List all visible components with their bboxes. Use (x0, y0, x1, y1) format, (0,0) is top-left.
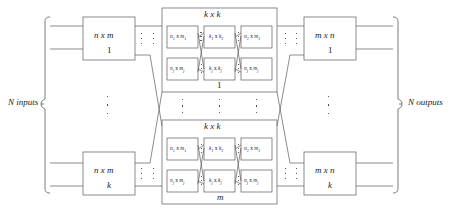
ellipsis-input-stage-vertical (106, 96, 109, 114)
ellipsis-output-box-k-ports (295, 168, 298, 179)
ellipsis-middle-stage-col2 (218, 99, 221, 113)
midm-out-switch-top-label: n1 x m1 (244, 146, 260, 153)
ellipsis-interstage-right-1 (284, 33, 287, 44)
ellipsis-output-stage-vertical (327, 96, 330, 114)
input-switch-k-dimension: n x m (94, 166, 114, 175)
mid1-out-switch-bot-label: nj x mj (244, 66, 258, 73)
midm-in-switch-top-label: n1 x m1 (170, 146, 186, 153)
input-switch-1-dimension: n x m (94, 31, 114, 40)
ellipsis-midm-col1-bot (200, 176, 203, 185)
output-switch-1-index: 1 (328, 46, 333, 55)
ellipsis-interstage-left-m (152, 168, 155, 179)
right-brace (393, 17, 402, 193)
input-lines-bottom (50, 163, 83, 186)
mid1-in-switch-top-label: n1 x m1 (170, 34, 186, 41)
middle-block-1-index: 1 (217, 81, 222, 90)
n-outputs-label-text: N outputs (408, 97, 443, 107)
midm-center-switch-bot-label: kj x kj (209, 178, 222, 185)
ellipsis-output-box-1-ports (295, 33, 298, 44)
ellipsis-mid1-col1-bot (200, 64, 203, 73)
midm-out-switch-bot-label: nj x mj (244, 178, 258, 185)
mid1-center-switch-bot-label: kj x kj (209, 66, 222, 73)
n-inputs-label: N inputs (8, 98, 38, 107)
input-switch-1-index: 1 (107, 46, 112, 55)
midm-in-switch-bot-label: nj x mj (170, 178, 184, 185)
mid1-in-switch-bot-label: nj x mj (170, 66, 184, 73)
ellipsis-input-box-k-ports (140, 168, 143, 179)
ellipsis-interstage-left-1 (152, 33, 155, 44)
clos-network-diagram: N inputs N outputs n x m 1 n x m k m x n… (0, 0, 469, 211)
output-switch-1-dimension: m x n (315, 31, 335, 40)
left-brace (41, 17, 50, 193)
mid1-center-switch-top-label: k1 x k1 (209, 34, 223, 41)
diagram-vector-layer (0, 0, 469, 211)
ellipsis-midm-col1-top (200, 144, 203, 153)
output-switch-k-dimension: m x n (315, 166, 335, 175)
ellipsis-middle-stage-col3 (255, 99, 258, 113)
ellipsis-input-box-1-ports (140, 33, 143, 44)
output-switch-k-index: k (328, 181, 332, 190)
ellipsis-interstage-right-m (284, 168, 287, 179)
middle-block-m-title: k x k (204, 122, 220, 131)
input-switch-k-index: k (107, 181, 111, 190)
ellipsis-middle-stage-col1 (181, 99, 184, 113)
n-inputs-label-text: N inputs (8, 97, 38, 107)
output-lines-bottom (356, 163, 393, 186)
ellipsis-midm-col3-top (237, 144, 240, 153)
ellipsis-mid1-col3-top (237, 32, 240, 41)
mid1-out-switch-top-label: n1 x m1 (244, 34, 260, 41)
n-outputs-label: N outputs (408, 98, 443, 107)
ellipsis-mid1-col2-top (199, 32, 202, 41)
middle-block-1-title: k x k (204, 10, 220, 19)
output-lines-top (356, 26, 393, 49)
ellipsis-mid1-col3-bot (237, 64, 240, 73)
ellipsis-midm-col3-bot (237, 176, 240, 185)
middle-block-m-index: m (217, 193, 224, 202)
midm-center-switch-top-label: k1 x k1 (209, 146, 223, 153)
input-lines-top (50, 26, 83, 49)
